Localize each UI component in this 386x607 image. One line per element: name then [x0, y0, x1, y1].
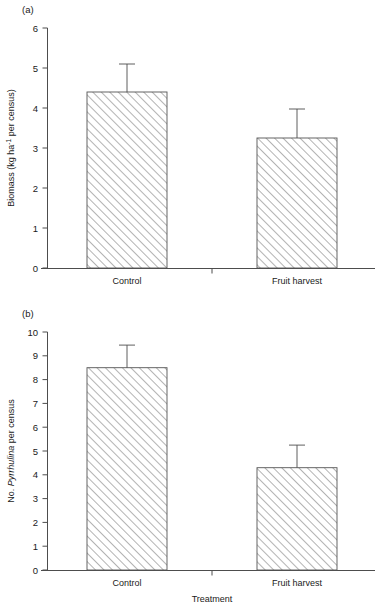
panel-a-ytick-5: 5 [33, 63, 38, 74]
panel-a-ytick-4: 4 [33, 103, 38, 114]
panel-b-ytick-7: 7 [33, 398, 38, 409]
panel-a-category-fruit-harvest: Fruit harvest [272, 276, 323, 286]
panel-a: (a) 0 1 2 3 4 5 6 Biom [5, 4, 376, 286]
panel-b-category-fruit-harvest: Fruit harvest [272, 578, 323, 588]
panel-a-y-axis-title: Biomass (kg ha-1 per census) [5, 89, 17, 206]
panel-b-ylabel-pre: No. [6, 486, 16, 503]
panel-b-ytick-9: 9 [33, 350, 38, 361]
panel-a-ytick-6: 6 [33, 23, 38, 34]
panel-a-ytick-2: 2 [33, 183, 38, 194]
panel-b-y-axis-title: No. Pyrrhulina per census [6, 399, 16, 503]
panel-a-error-fruit-harvest [289, 109, 305, 138]
panel-b-ytick-8: 8 [33, 374, 38, 385]
panel-a-ylabel-suffix: per census) [6, 89, 16, 139]
panel-a-label: (a) [22, 4, 34, 15]
panel-b-error-fruit-harvest [289, 445, 305, 468]
panel-b-bar-fruit-harvest [257, 468, 337, 570]
panel-a-ytick-1: 1 [33, 223, 38, 234]
panel-a-ytick-0: 0 [33, 263, 38, 274]
panel-b-ylabel-italic: Pyrrhulina [6, 446, 16, 487]
panel-b-ytick-3: 3 [33, 493, 38, 504]
panel-b-error-control [119, 345, 135, 368]
panel-a-bar-control [87, 92, 167, 268]
panel-a-ytick-3: 3 [33, 143, 38, 154]
figure-container: (a) 0 1 2 3 4 5 6 Biom [0, 0, 386, 607]
panel-b-ytick-0: 0 [33, 565, 38, 576]
figure-svg: (a) 0 1 2 3 4 5 6 Biom [0, 0, 386, 607]
panel-b-ytick-2: 2 [33, 517, 38, 528]
panel-b-ytick-6: 6 [33, 422, 38, 433]
panel-b-y-ticks [43, 332, 48, 570]
panel-a-category-control: Control [112, 276, 141, 286]
panel-b-bar-control [87, 368, 167, 570]
panel-a-bar-fruit-harvest [257, 138, 337, 268]
panel-b-category-control: Control [112, 578, 141, 588]
panel-b: (b) 0 1 2 3 4 5 6 [6, 308, 375, 604]
panel-b-ytick-10: 10 [27, 327, 38, 338]
panel-a-y-ticks [43, 28, 48, 268]
panel-a-ylabel-prefix: Biomass (kg ha [6, 145, 16, 207]
panel-b-ytick-1: 1 [33, 541, 38, 552]
panel-b-ytick-5: 5 [33, 446, 38, 457]
panel-b-ytick-4: 4 [33, 469, 38, 480]
panel-b-label: (b) [22, 308, 34, 319]
panel-b-ylabel-post: per census [6, 399, 16, 446]
panel-a-error-control [119, 64, 135, 92]
x-axis-title: Treatment [192, 594, 233, 604]
